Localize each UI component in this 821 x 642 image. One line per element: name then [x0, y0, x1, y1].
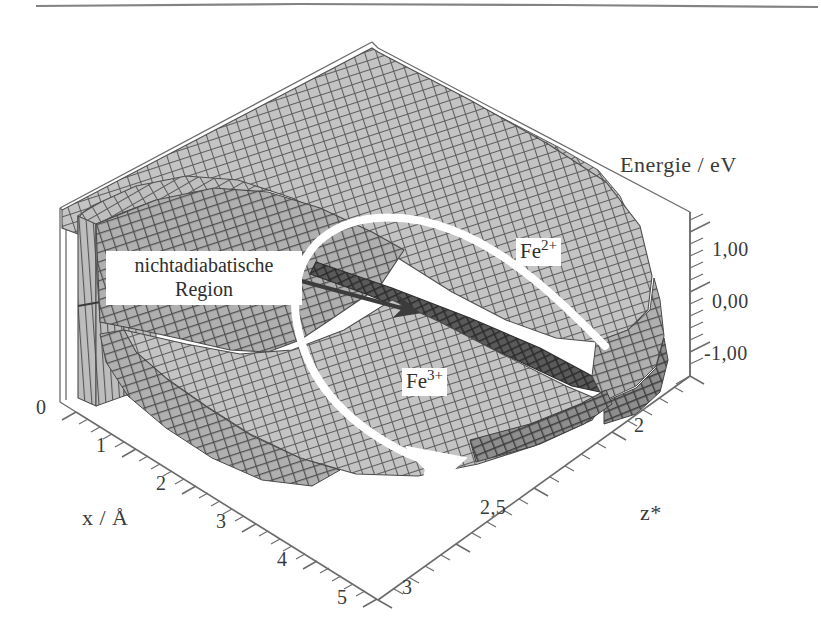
y-tick-label-3: 3: [402, 576, 412, 599]
figure-3d-surface-plot: Energie / eV 1,00 0,00 -1,00 x / Å 0 1 2…: [0, 0, 821, 642]
fe2-element: Fe: [520, 239, 541, 263]
x-axis-label: x / Å: [82, 505, 129, 531]
fe3-element: Fe: [406, 369, 427, 393]
fe3-charge: 3+: [427, 367, 443, 383]
z-axis-label: Energie / eV: [620, 152, 737, 178]
surface-label-fe3plus: Fe3+: [402, 368, 447, 396]
y-axis-label: z*: [640, 500, 662, 526]
z-tick-label-1: 1,00: [712, 238, 749, 261]
x-tick-label-2: 2: [156, 472, 166, 495]
nonadiabatic-region-callout: nichtadiabatische Region: [106, 251, 302, 305]
x-tick-label-4: 4: [277, 548, 287, 571]
y-tick-label-2p5: 2,5: [480, 496, 506, 519]
z-tick-label-3: -1,00: [704, 342, 748, 365]
y-tick-label-2: 2: [634, 414, 644, 437]
surface-plot-canvas: [0, 0, 821, 642]
fe2-charge: 2+: [541, 237, 557, 253]
callout-line-2: Region: [112, 278, 296, 302]
x-tick-label-1: 1: [96, 434, 106, 457]
x-tick-label-5: 5: [337, 586, 347, 609]
z-tick-label-2: 0,00: [712, 290, 749, 313]
y-axis-label-text: z*: [640, 500, 662, 525]
callout-line-1: nichtadiabatische: [135, 254, 274, 276]
x-tick-label-3: 3: [216, 510, 226, 533]
x-tick-label-0: 0: [36, 396, 46, 419]
surface-label-fe2plus: Fe2+: [516, 238, 561, 266]
scan-artifact-line: [36, 4, 818, 7]
